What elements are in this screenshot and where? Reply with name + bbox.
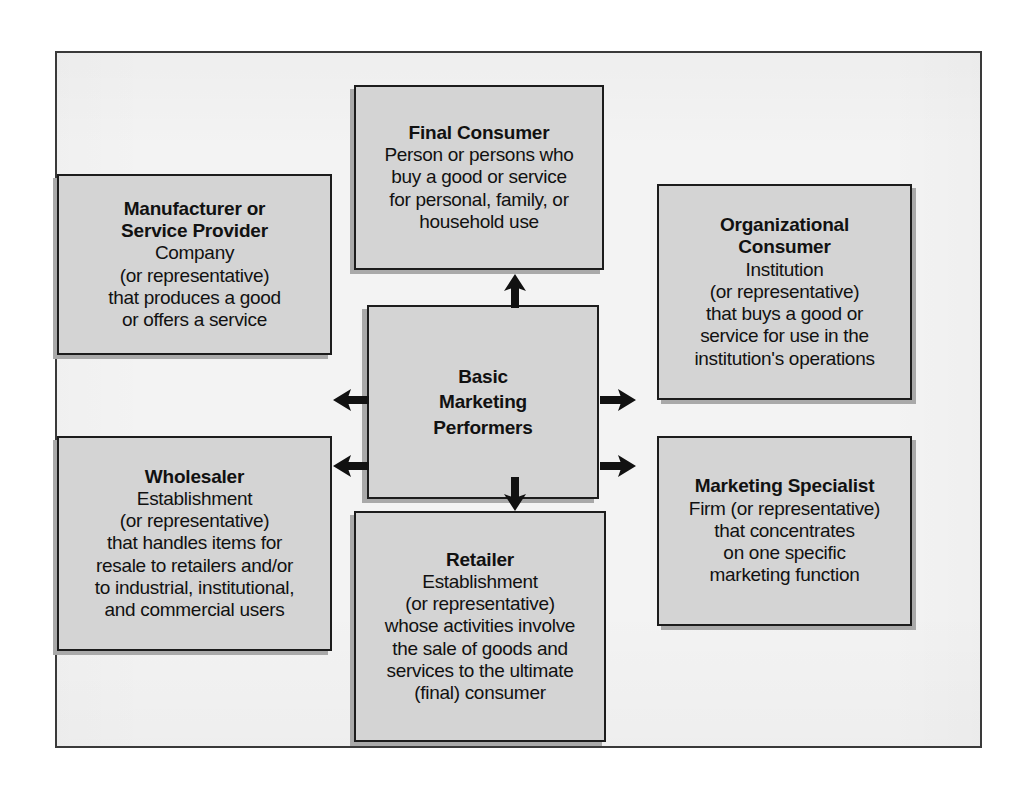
node-center-title: Basic Marketing Performers <box>433 364 532 440</box>
node-marketing-specialist-title: Marketing Specialist <box>695 475 875 497</box>
node-marketing-specialist-body: Firm (or representative) that concentrat… <box>689 498 880 587</box>
node-organizational-consumer-body: Institution (or representative) that buy… <box>694 259 874 370</box>
arrow-left-to-manufacturer-icon <box>333 386 369 414</box>
node-final-consumer-body: Person or persons who buy a good or serv… <box>384 144 573 233</box>
node-wholesaler-body: Establishment (or representative) that h… <box>95 488 294 621</box>
node-final-consumer[interactable]: Final Consumer Person or persons who buy… <box>354 85 604 270</box>
node-manufacturer-title: Manufacturer or Service Provider <box>121 198 268 242</box>
node-wholesaler[interactable]: Wholesaler Establishment (or representat… <box>57 436 332 651</box>
node-retailer-title: Retailer <box>446 549 514 571</box>
arrow-down-to-retailer-icon <box>501 477 529 511</box>
diagram-frame: Final Consumer Person or persons who buy… <box>55 51 982 748</box>
arrow-right-to-marketing-specialist-icon <box>600 452 636 480</box>
arrow-up-to-final-consumer-icon <box>501 274 529 308</box>
node-manufacturer-or-service-provider[interactable]: Manufacturer or Service Provider Company… <box>57 174 332 355</box>
node-basic-marketing-performers[interactable]: Basic Marketing Performers <box>367 305 599 499</box>
node-organizational-consumer[interactable]: Organizational Consumer Institution (or … <box>657 184 912 400</box>
node-retailer-body: Establishment (or representative) whose … <box>385 571 575 704</box>
diagram-page: Final Consumer Person or persons who buy… <box>0 0 1029 786</box>
node-marketing-specialist[interactable]: Marketing Specialist Firm (or representa… <box>657 436 912 626</box>
arrow-left-to-wholesaler-icon <box>333 452 369 480</box>
node-manufacturer-body: Company (or representative) that produce… <box>108 242 281 331</box>
node-organizational-consumer-title: Organizational Consumer <box>720 214 849 258</box>
node-wholesaler-title: Wholesaler <box>145 466 244 488</box>
node-final-consumer-title: Final Consumer <box>409 122 550 144</box>
arrow-right-to-organizational-consumer-icon <box>600 386 636 414</box>
node-retailer[interactable]: Retailer Establishment (or representativ… <box>354 511 606 742</box>
